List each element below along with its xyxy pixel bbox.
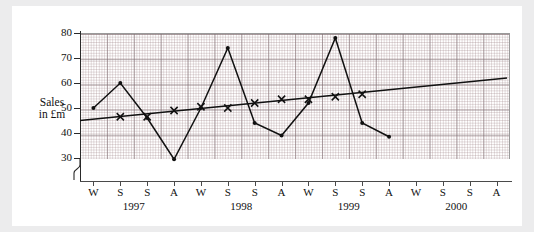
sales-point	[226, 46, 230, 50]
sales-line	[93, 38, 389, 159]
sales-point	[280, 134, 284, 138]
sales-point	[360, 121, 364, 125]
moving-average-cross	[278, 96, 285, 103]
sales-point	[333, 36, 337, 40]
sales-point	[91, 106, 95, 110]
series-layer	[12, 6, 522, 226]
sales-point	[253, 121, 257, 125]
sales-point	[118, 81, 122, 85]
moving-average-cross	[332, 93, 339, 100]
sales-point	[387, 135, 391, 139]
chart-card: Sales in £m 304050607080 WSSAWSSAWSSAWSS…	[12, 6, 522, 226]
sales-point	[172, 157, 176, 161]
